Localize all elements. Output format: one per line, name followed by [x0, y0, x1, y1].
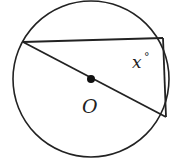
chord-ab — [23, 38, 163, 42]
degree-symbol: ° — [144, 50, 150, 63]
angle-label-x: x — [132, 52, 142, 72]
center-label-o: O — [82, 95, 98, 117]
center-point — [87, 75, 95, 83]
circle-diagram: x ° O — [0, 0, 176, 160]
